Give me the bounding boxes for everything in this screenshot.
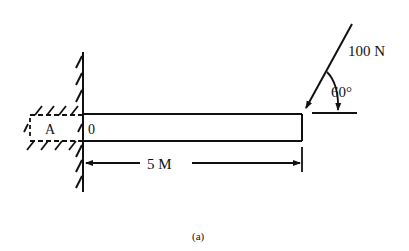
fixed-wall: [76, 52, 83, 192]
origin-label: 0: [88, 122, 95, 137]
figure-caption: (a): [192, 230, 205, 243]
support-label-a: A: [45, 122, 56, 137]
cantilever-diagram: A 0 5 M 100 N 60° (a): [0, 0, 409, 251]
beam: [84, 114, 302, 141]
length-label: 5 M: [147, 156, 172, 172]
angle-label: 60°: [331, 84, 352, 100]
length-dimension: [86, 147, 302, 172]
force-label: 100 N: [348, 43, 385, 59]
